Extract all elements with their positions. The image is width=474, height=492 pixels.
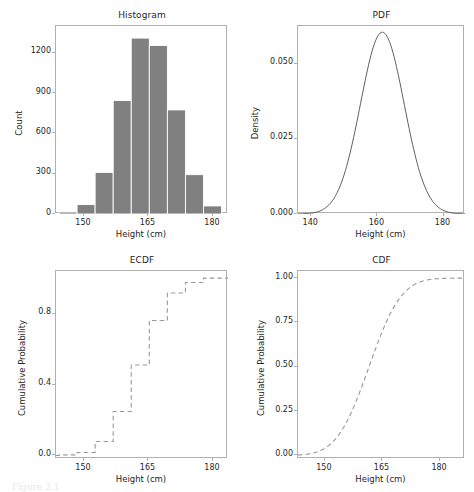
pdf-x-tick-label: 180 (423, 218, 463, 227)
cdf-y-tick-label: 1.00 (241, 272, 293, 281)
pdf-y-tick-mark (294, 213, 297, 214)
pdf-x-tick-mark (310, 213, 311, 216)
histogram-y-tick-label: 1200 (0, 46, 51, 55)
ecdf-y-tick-mark (52, 384, 55, 385)
pdf-y-tick-label: 0.025 (241, 132, 293, 141)
cdf-y-tick-label: 0.25 (241, 405, 293, 414)
cdf-y-tick-label: 0.50 (241, 360, 293, 369)
cdf-y-tick-mark (294, 410, 297, 411)
pdf-normal-curve (298, 32, 465, 214)
pdf-y-tick-mark (294, 63, 297, 64)
cdf-curve (298, 271, 465, 459)
pdf-y-tick-mark (294, 138, 297, 139)
cdf-y-tick-label: 0.75 (241, 316, 293, 325)
cdf-x-tick-mark (381, 458, 382, 461)
histogram-bar (77, 205, 95, 214)
cdf-y-tick-mark (294, 277, 297, 278)
cdf-x-tick-mark (439, 458, 440, 461)
pdf-y-axis-label: Density (250, 93, 260, 153)
ecdf-x-tick-mark (212, 458, 213, 461)
cdf-title: CDF (297, 255, 466, 265)
histogram-x-axis-label: Height (cm) (55, 229, 227, 239)
pdf-y-tick-label: 0.050 (241, 57, 293, 66)
histogram-y-tick-mark (52, 213, 55, 214)
histogram-bars (56, 26, 228, 214)
cdf-y-tick-mark (294, 454, 297, 455)
histogram-plot-area (55, 25, 227, 213)
histogram-title: Histogram (55, 10, 229, 20)
histogram-x-tick-label: 150 (63, 218, 103, 227)
histogram-y-tick-mark (52, 132, 55, 133)
ecdf-y-tick-label: 0.8 (0, 307, 51, 316)
panel-ecdf: ECDF Cumulative Probability 0.00.40.8150… (0, 245, 237, 490)
panel-pdf: PDF Density 0.0000.0250.050140160180 Hei… (237, 0, 474, 245)
histogram-y-tick-label: 0 (0, 208, 51, 217)
ecdf-y-tick-label: 0.0 (0, 449, 51, 458)
ecdf-title: ECDF (55, 255, 229, 265)
histogram-bar (113, 101, 131, 214)
histogram-x-tick-label: 165 (127, 218, 167, 227)
pdf-y-tick-label: 0.000 (241, 208, 293, 217)
histogram-bar (167, 110, 185, 214)
histogram-bar (149, 45, 167, 214)
ecdf-x-tick-mark (147, 458, 148, 461)
pdf-plot-area (297, 25, 464, 213)
histogram-bar (59, 212, 77, 214)
cdf-y-tick-mark (294, 321, 297, 322)
cdf-x-tick-label: 180 (419, 463, 459, 472)
pdf-x-tick-label: 160 (356, 218, 396, 227)
pdf-x-tick-label: 140 (290, 218, 330, 227)
histogram-bar (185, 175, 203, 214)
ecdf-x-tick-mark (83, 458, 84, 461)
cdf-normal-curve (298, 278, 465, 455)
histogram-y-tick-mark (52, 173, 55, 174)
ecdf-x-tick-label: 180 (192, 463, 232, 472)
cdf-x-axis-label: Height (cm) (297, 474, 464, 484)
ecdf-y-tick-mark (52, 454, 55, 455)
histogram-x-tick-mark (83, 213, 84, 216)
cdf-x-tick-label: 150 (304, 463, 344, 472)
cdf-y-tick-label: 0.00 (241, 449, 293, 458)
ecdf-step-line (56, 278, 228, 455)
panel-histogram: Histogram Count 03006009001200150165180 … (0, 0, 237, 245)
histogram-y-axis-label: Count (14, 93, 24, 153)
histogram-y-tick-label: 600 (0, 127, 51, 136)
ecdf-plot-area (55, 270, 227, 458)
ecdf-x-tick-label: 150 (63, 463, 103, 472)
histogram-y-tick-mark (52, 92, 55, 93)
histogram-y-tick-mark (52, 52, 55, 53)
histogram-bar (131, 38, 149, 214)
ecdf-x-axis-label: Height (cm) (55, 474, 227, 484)
cdf-y-tick-mark (294, 366, 297, 367)
pdf-x-tick-mark (443, 213, 444, 216)
cdf-plot-area (297, 270, 464, 458)
ecdf-y-tick-mark (52, 313, 55, 314)
histogram-y-tick-label: 900 (0, 87, 51, 96)
histogram-x-tick-mark (147, 213, 148, 216)
pdf-x-axis-label: Height (cm) (297, 229, 464, 239)
pdf-x-tick-mark (376, 213, 377, 216)
histogram-x-tick-label: 180 (192, 218, 232, 227)
figure-caption: Figure 2.1 (12, 482, 59, 492)
ecdf-x-tick-label: 165 (127, 463, 167, 472)
pdf-title: PDF (297, 10, 466, 20)
histogram-bar (95, 172, 113, 214)
histogram-y-tick-label: 300 (0, 167, 51, 176)
pdf-curve (298, 26, 465, 214)
ecdf-y-tick-label: 0.4 (0, 378, 51, 387)
panel-cdf: CDF Cumulative Probability 0.000.250.500… (237, 245, 474, 490)
cdf-x-tick-mark (324, 458, 325, 461)
histogram-x-tick-mark (212, 213, 213, 216)
cdf-x-tick-label: 165 (361, 463, 401, 472)
ecdf-step-curve (56, 271, 228, 459)
ecdf-y-axis-label: Cumulative Probability (17, 308, 27, 428)
